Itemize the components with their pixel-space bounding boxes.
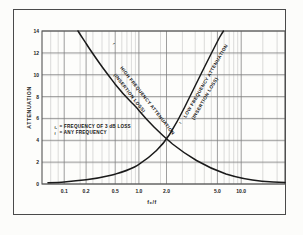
x-axis-title: f₀/f — [147, 199, 156, 205]
curve-label-low-frequency-line1: LOW FREQUENCY ATTENUATION — [183, 43, 230, 119]
definition-note-symbol-f0: f₀ — [55, 126, 58, 130]
y-axis-tick-labels: 14 12 10 8 6 4 2 0 — [33, 28, 39, 187]
y-tick-label: 8 — [36, 94, 39, 100]
y-tick-label: 14 — [33, 28, 39, 34]
y-tick-label: 10 — [33, 72, 39, 78]
y-tick-label: 6 — [36, 115, 39, 121]
grid-minor-horizontal — [42, 54, 285, 163]
chart-svg: 14 12 10 8 6 4 2 0 0.1 0.2 0.5 1.0 2.0 5… — [0, 0, 303, 235]
y-axis-title: ATTENUATION — [26, 86, 32, 128]
definition-note: f₀ = FREQUENCY OF 3 dB LOSS f = ANY FREQ… — [55, 124, 131, 136]
x-tick-label: 5.0 — [214, 188, 221, 194]
y-tick-label: 4 — [36, 137, 39, 143]
y-tick-label: 0 — [36, 181, 39, 187]
definition-note-symbol-f: f — [55, 132, 57, 136]
x-tick-label: 0.2 — [83, 188, 90, 194]
x-tick-label: 2.0 — [163, 188, 170, 194]
x-axis-tick-labels: 0.1 0.2 0.5 1.0 2.0 5.0 10.0 — [61, 188, 247, 194]
x-tick-label: 1.0 — [135, 188, 142, 194]
figure-container: 14 12 10 8 6 4 2 0 0.1 0.2 0.5 1.0 2.0 5… — [0, 0, 303, 235]
y-tick-label: 12 — [33, 50, 39, 56]
plot-wrapper: 14 12 10 8 6 4 2 0 0.1 0.2 0.5 1.0 2.0 5… — [0, 0, 303, 235]
x-tick-label: 0.1 — [61, 188, 68, 194]
definition-note-line1: = FREQUENCY OF 3 dB LOSS — [60, 124, 131, 129]
y-tick-label: 2 — [36, 159, 39, 165]
x-tick-label: 10.0 — [236, 188, 246, 194]
x-tick-label: 0.5 — [112, 188, 119, 194]
curve-label-low-frequency: LOW FREQUENCY ATTENUATION (INSERTION LOS… — [178, 43, 229, 125]
definition-note-line2: = ANY FREQUENCY — [60, 130, 107, 135]
